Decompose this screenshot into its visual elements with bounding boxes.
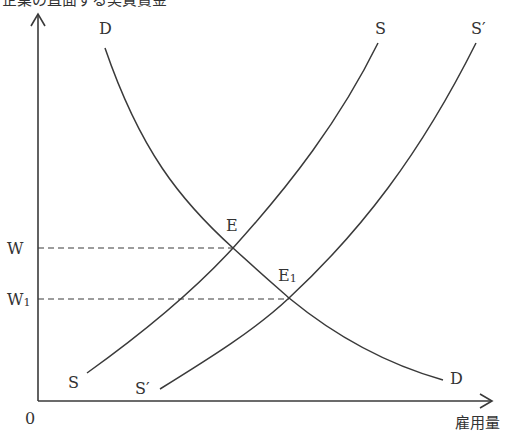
supply-shifted-label-top: S′ (471, 19, 486, 38)
demand-label-top: D (99, 19, 112, 38)
wage-w-label: W (7, 239, 24, 258)
supply-shifted-curve (160, 43, 476, 389)
supply-curve (87, 43, 378, 373)
wage-w1-label: W1 (7, 290, 30, 309)
supply-shifted-label-bottom: S′ (135, 379, 150, 398)
demand-curve (105, 48, 443, 380)
labor-market-diagram: 企業の直面する実質賃金 D D S S S′ S′ E E1 W W1 0 雇用… (0, 0, 512, 447)
x-axis-label: 雇用量 (455, 414, 500, 432)
y-axis-label: 企業の直面する実質賃金 (2, 0, 167, 9)
guides (38, 248, 289, 299)
equilibrium-e1-label: E1 (278, 266, 297, 285)
equilibrium-e-label: E (226, 216, 238, 235)
origin-label: 0 (25, 409, 35, 428)
axes (31, 14, 492, 408)
supply-label-bottom: S (68, 373, 79, 392)
demand-label-bottom: D (450, 369, 463, 388)
supply-label-top: S (375, 19, 386, 38)
